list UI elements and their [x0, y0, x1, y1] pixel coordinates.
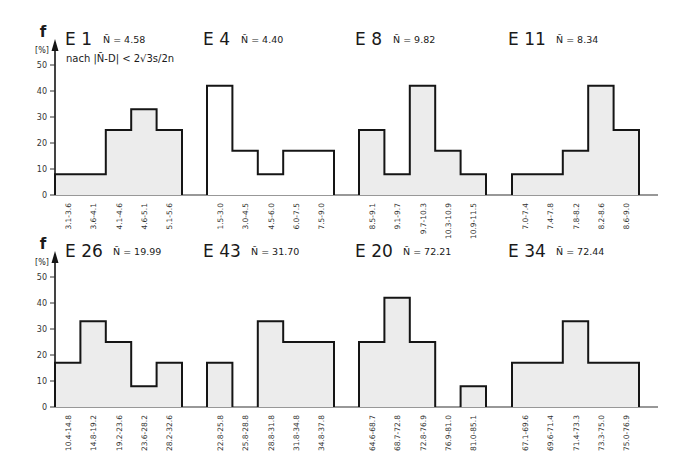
y-tick-label: 50: [37, 61, 47, 70]
x-category-label: 76.9-81.0: [444, 415, 453, 451]
panel-title-E4: E 4: [203, 29, 230, 49]
panel-title-E20: E 20: [355, 241, 393, 261]
x-category-label: 4.1-4.6: [115, 203, 124, 230]
x-category-label: 7.0-7.4: [521, 203, 530, 230]
x-category-label: 5.1-5.6: [165, 203, 174, 230]
mean-label-E8: N̄ = 9.82: [393, 34, 435, 45]
panel-title-E26: E 26: [65, 241, 103, 261]
x-category-label: 22.8-25.8: [216, 415, 225, 451]
y-tick-label: 10: [37, 165, 47, 174]
histogram-fill: [55, 321, 182, 407]
y-tick-label: 0: [42, 191, 47, 200]
x-category-label: 19.2-23.6: [115, 415, 124, 451]
y-axis-label: f: [40, 235, 47, 253]
mean-label-E4: N̄ = 4.40: [241, 34, 283, 45]
x-category-label: 9.7-10.3: [419, 203, 428, 235]
histogram-fill: [512, 321, 639, 407]
y-tick-label: 30: [37, 325, 47, 334]
mean-label-E34: N̄ = 72.44: [556, 246, 604, 257]
x-category-label: 75.0-76.9: [622, 415, 631, 451]
x-category-label: 10.4-14.8: [64, 415, 73, 451]
y-tick-label: 30: [37, 113, 47, 122]
x-category-label: 4.6-5.1: [140, 203, 149, 230]
x-category-label: 28.8-31.8: [267, 415, 276, 451]
x-category-label: 8.5-9.1: [368, 203, 377, 230]
mean-label-E20: N̄ = 72.21: [403, 246, 451, 257]
y-axis-unit: [%]: [35, 258, 49, 267]
x-category-label: 3.6-4.1: [89, 203, 98, 230]
histogram-fill: [258, 321, 334, 407]
x-category-label: 14.8-19.2: [89, 415, 98, 451]
x-category-label: 6.0-7.5: [292, 203, 301, 230]
panel-note: nach |N̄-D| < 2√3s/2n: [66, 52, 174, 65]
y-tick-label: 40: [37, 299, 47, 308]
x-category-label: 10.9-11.5: [469, 203, 478, 239]
y-tick-label: 0: [42, 403, 47, 412]
y-tick-label: 20: [37, 351, 47, 360]
panel-title-E1: E 1: [65, 29, 92, 49]
panel-title-E11: E 11: [508, 29, 546, 49]
mean-label-E11: N̄ = 8.34: [556, 34, 598, 45]
histogram-fill: [55, 109, 182, 195]
x-category-label: 31.8-34.8: [292, 415, 301, 451]
x-category-label: 71.4-73.3: [572, 415, 581, 451]
x-category-label: 9.1-9.7: [393, 203, 402, 230]
x-category-label: 25.8-28.8: [241, 415, 250, 451]
x-category-label: 67.1-69.6: [521, 415, 530, 451]
histogram-fill: [207, 86, 334, 195]
mean-label-E26: N̄ = 19.99: [113, 246, 161, 257]
histogram-fill: [512, 86, 639, 195]
y-axis-arrow-icon: [52, 39, 59, 51]
panel-title-E43: E 43: [203, 241, 241, 261]
histogram-figure: f[%]01020304050f[%]01020304050E 1N̄ = 4.…: [0, 0, 678, 467]
x-category-label: 4.5-6.0: [267, 203, 276, 230]
x-category-label: 3.0-4.5: [241, 203, 250, 230]
x-category-label: 73.3-75.0: [597, 415, 606, 451]
x-category-label: 8.6-9.0: [622, 203, 631, 230]
mean-label-E1: N̄ = 4.58: [103, 34, 145, 45]
x-category-label: 23.6-28.2: [140, 415, 149, 451]
x-category-label: 7.8-8.2: [572, 203, 581, 230]
histogram-fill: [359, 298, 435, 407]
panel-title-E8: E 8: [355, 29, 382, 49]
x-category-label: 69.6-71.4: [546, 415, 555, 451]
y-axis-unit: [%]: [35, 46, 49, 55]
y-axis-label: f: [40, 23, 47, 41]
x-category-label: 28.2-32.6: [165, 415, 174, 451]
x-category-label: 64.6-68.7: [368, 415, 377, 451]
x-category-label: 7.4-7.8: [546, 203, 555, 230]
x-category-label: 10.3-10.9: [444, 203, 453, 239]
x-category-label: 7.5-9.0: [317, 203, 326, 230]
x-category-label: 72.8-76.9: [419, 415, 428, 451]
y-tick-label: 50: [37, 273, 47, 282]
x-category-label: 8.2-8.6: [597, 203, 606, 230]
x-category-label: 3.1-3.6: [64, 203, 73, 230]
x-category-label: 68.7-72.8: [393, 415, 402, 451]
mean-label-E43: N̄ = 31.70: [251, 246, 299, 257]
y-tick-label: 40: [37, 87, 47, 96]
x-category-label: 1.5-3.0: [216, 203, 225, 230]
histogram-fill: [207, 363, 232, 407]
histogram-fill: [359, 86, 486, 195]
x-category-label: 34.8-37.8: [317, 415, 326, 451]
y-tick-label: 10: [37, 377, 47, 386]
panel-title-E34: E 34: [508, 241, 546, 261]
histogram-fill: [461, 386, 486, 407]
y-tick-label: 20: [37, 139, 47, 148]
x-category-label: 81.0-85.1: [469, 415, 478, 451]
y-axis-arrow-icon: [52, 251, 59, 263]
